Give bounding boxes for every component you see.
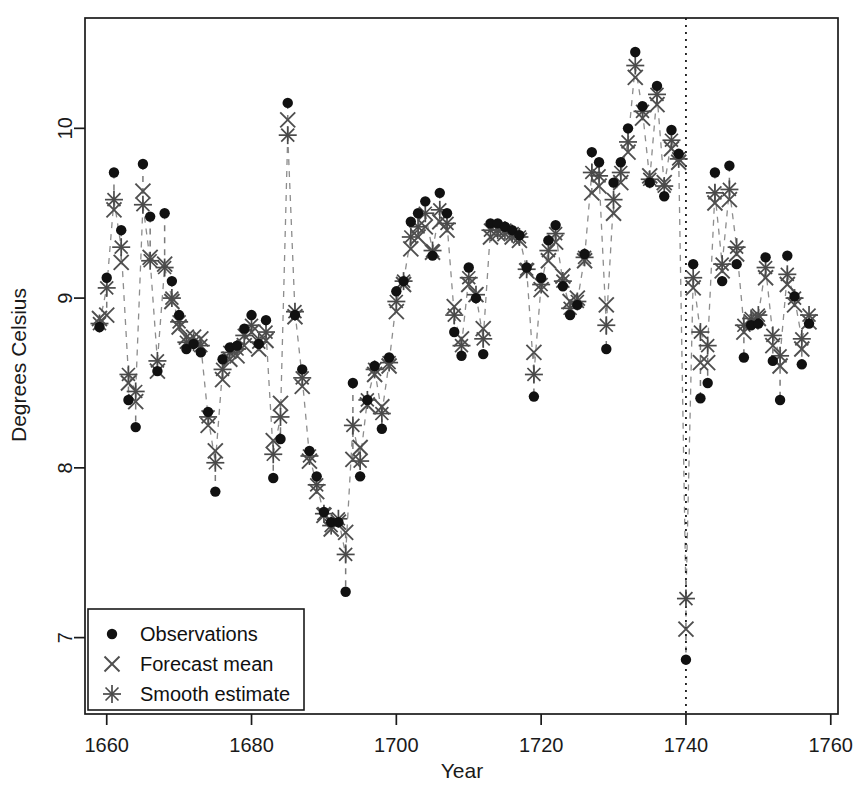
- x-tick-label: 1740: [664, 734, 709, 756]
- filled-circle-icon: [107, 629, 117, 639]
- y-tick-label: 8: [54, 462, 76, 473]
- legend-item-label: Smooth estimate: [140, 683, 290, 705]
- y-tick-label: 9: [54, 293, 76, 304]
- y-tick-label: 7: [54, 632, 76, 643]
- x-tick-label: 1660: [84, 734, 129, 756]
- x-axis-label: Year: [441, 759, 483, 782]
- x-tick-label: 1720: [519, 734, 564, 756]
- x-tick-label: 1680: [229, 734, 274, 756]
- y-tick-label: 10: [54, 117, 76, 139]
- y-axis-label: Degrees Celsius: [7, 288, 30, 442]
- legend-item-label: Observations: [140, 623, 258, 645]
- x-tick-label: 1760: [809, 734, 854, 756]
- forecast-scatter-chart: 166016801700172017401760 78910 Year Degr…: [0, 0, 865, 790]
- asterisk-icon: [103, 685, 121, 703]
- legend-item-label: Forecast mean: [140, 653, 273, 675]
- chart-legend: ObservationsForecast meanSmooth estimate: [88, 609, 304, 710]
- x-tick-label: 1700: [374, 734, 419, 756]
- chart-figure: 166016801700172017401760 78910 Year Degr…: [0, 0, 865, 790]
